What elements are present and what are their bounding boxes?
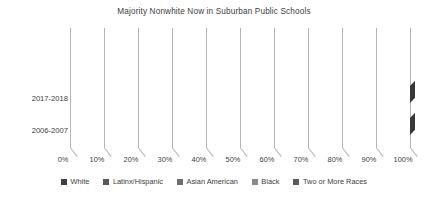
- gridline: [376, 28, 377, 148]
- chart-legend: WhiteLatinx/HispanicAsian AmericanBlackT…: [0, 177, 428, 186]
- x-axis-tick-label: 20%: [124, 155, 139, 164]
- x-axis-tick-label: 0%: [58, 155, 69, 164]
- bar-side-face: [410, 113, 415, 135]
- x-axis-tick-label: 100%: [394, 155, 413, 164]
- x-axis-tick-label: 80%: [328, 155, 343, 164]
- plot-area: [70, 28, 410, 148]
- x-axis-tick-label: 10%: [90, 155, 105, 164]
- x-axis-tick-label: 30%: [158, 155, 173, 164]
- legend-label: Latinx/Hispanic: [113, 177, 163, 186]
- gridline: [274, 28, 275, 148]
- legend-label: White: [70, 177, 89, 186]
- x-axis-tick-label: 70%: [294, 155, 309, 164]
- bar-segment-top: [70, 86, 76, 91]
- legend-swatch-icon: [293, 179, 299, 185]
- gridline: [138, 28, 139, 148]
- legend-label: Black: [261, 177, 279, 186]
- gridline: [172, 28, 173, 148]
- bar-segment-top: [70, 86, 76, 91]
- gridline: [342, 28, 343, 148]
- legend-item[interactable]: White: [61, 177, 89, 186]
- bar-segment-top: [70, 118, 76, 123]
- bar-segment-top: [70, 86, 76, 91]
- bar-segment-top: [70, 86, 76, 91]
- bar-segment-top: [70, 118, 76, 123]
- bar-segment-top: [70, 118, 76, 123]
- legend-item[interactable]: Asian American: [177, 177, 238, 186]
- x-axis-tick-label: 90%: [362, 155, 377, 164]
- legend-swatch-icon: [103, 179, 109, 185]
- gridline: [70, 28, 71, 148]
- x-axis-tick-label: 60%: [260, 155, 275, 164]
- category-label-2006-2007: 2006-2007: [6, 126, 68, 135]
- bar-segment-top: [70, 118, 76, 123]
- category-axis: 2017-2018 2006-2007: [0, 0, 68, 201]
- gridline: [308, 28, 309, 148]
- category-label-2017-2018: 2017-2018: [6, 94, 68, 103]
- chart-container: Majority Nonwhite Now in Suburban Public…: [0, 0, 428, 201]
- bar-segment-top: [70, 118, 76, 123]
- legend-label: Two or More Races: [303, 177, 367, 186]
- legend-label: Asian American: [187, 177, 238, 186]
- legend-swatch-icon: [61, 179, 67, 185]
- x-axis-tick-labels: 0%10%20%30%40%50%60%70%80%90%100%: [0, 155, 428, 167]
- gridline: [206, 28, 207, 148]
- gridlines: [70, 28, 410, 148]
- x-axis-tick-label: 50%: [226, 155, 241, 164]
- legend-swatch-icon: [252, 179, 258, 185]
- gridline: [104, 28, 105, 148]
- bar-segment-top: [70, 86, 76, 91]
- x-axis-tick-label: 40%: [192, 155, 207, 164]
- gridline: [240, 28, 241, 148]
- bar-side-face: [410, 81, 415, 103]
- legend-item[interactable]: Black: [252, 177, 280, 186]
- legend-swatch-icon: [177, 179, 183, 185]
- legend-item[interactable]: Two or More Races: [293, 177, 367, 186]
- legend-item[interactable]: Latinx/Hispanic: [103, 177, 163, 186]
